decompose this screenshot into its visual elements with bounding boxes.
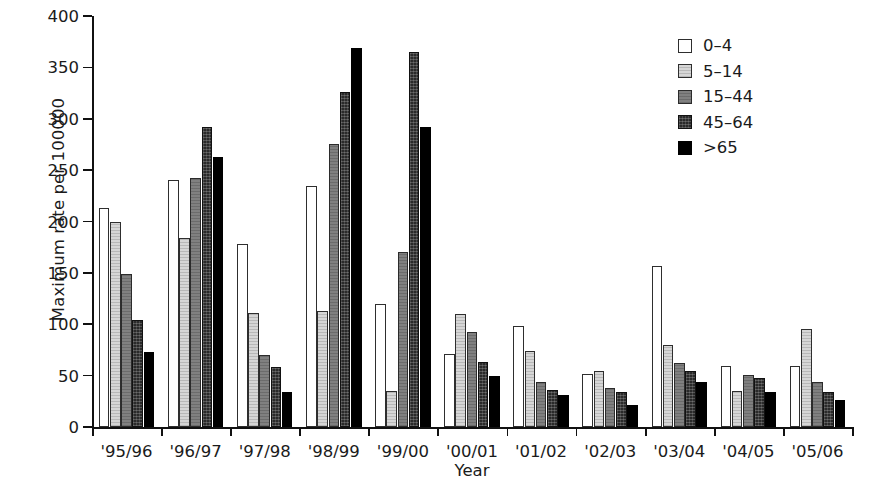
y-axis-tick <box>83 15 92 17</box>
bar <box>790 366 801 427</box>
bar <box>237 244 248 427</box>
x-axis-tick-label: '01/02 <box>515 442 567 461</box>
y-axis-tick <box>83 169 92 171</box>
bar <box>674 363 685 427</box>
bar <box>605 388 616 427</box>
legend-swatch-icon <box>678 64 692 78</box>
legend-label: 45–64 <box>703 113 753 132</box>
x-axis-tick <box>92 427 94 436</box>
bar <box>386 391 397 427</box>
x-axis-tick <box>576 427 578 436</box>
x-axis-tick-label: '05/06 <box>791 442 843 461</box>
y-axis-tick <box>83 67 92 69</box>
bar <box>271 367 282 427</box>
x-axis-tick <box>507 427 509 436</box>
legend-item: 5–14 <box>678 59 753 85</box>
x-axis-tick-label: '96/97 <box>170 442 222 461</box>
y-axis-tick-label: 350 <box>48 58 80 77</box>
bar <box>525 351 536 427</box>
bar <box>582 374 593 427</box>
bar <box>213 157 224 427</box>
y-axis-tick-label: 150 <box>48 263 80 282</box>
x-axis-tick <box>299 427 301 436</box>
bar <box>594 371 605 428</box>
bar-chart-figure: Maximum rate per 100000 0501001502002503… <box>0 0 875 490</box>
bar <box>132 320 143 427</box>
bar-group <box>99 16 154 427</box>
bar <box>398 252 409 427</box>
x-axis-tick-label: '02/03 <box>584 442 636 461</box>
y-axis-tick-label: 0 <box>69 418 80 437</box>
bar-group <box>582 16 637 427</box>
legend-label: 0–4 <box>703 36 732 55</box>
bar <box>329 144 340 427</box>
bar <box>801 329 812 427</box>
bar <box>765 392 776 427</box>
bar <box>467 332 478 427</box>
bar-group <box>375 16 430 427</box>
bar <box>144 352 155 427</box>
y-axis-tick <box>83 272 92 274</box>
x-axis-tick <box>783 427 785 436</box>
bar <box>306 186 317 427</box>
bar <box>696 382 707 427</box>
legend-swatch-icon <box>678 141 692 155</box>
bar <box>616 392 627 427</box>
x-axis-tick-label: '00/01 <box>446 442 498 461</box>
x-axis-title: Year <box>92 461 852 480</box>
bar <box>248 313 259 427</box>
bar-group <box>790 16 845 427</box>
y-axis-tick-label: 100 <box>48 315 80 334</box>
bar-group <box>168 16 223 427</box>
y-axis-tick <box>83 118 92 120</box>
bar <box>317 311 328 427</box>
x-axis-tick <box>645 427 647 436</box>
legend-item: 0–4 <box>678 33 753 59</box>
bar <box>99 208 110 427</box>
bar-group <box>513 16 568 427</box>
bar <box>340 92 351 427</box>
bar <box>282 392 293 427</box>
x-axis-tick <box>161 427 163 436</box>
x-axis-tick <box>230 427 232 436</box>
bar <box>455 314 466 427</box>
legend-label: 5–14 <box>703 62 743 81</box>
bar <box>721 366 732 427</box>
bar <box>536 382 547 427</box>
x-axis-tick <box>437 427 439 436</box>
legend-label: 15–44 <box>703 87 753 106</box>
bar <box>409 52 420 427</box>
bar <box>685 371 696 428</box>
bar <box>812 382 823 427</box>
bar <box>663 345 674 427</box>
legend-label: >65 <box>703 138 738 157</box>
bar <box>627 405 638 427</box>
bar <box>351 48 362 427</box>
bar <box>110 222 121 428</box>
bar-group <box>237 16 292 427</box>
chart-legend: 0–45–1415–4445–64>65 <box>678 33 753 161</box>
y-axis-tick-label: 400 <box>48 7 80 26</box>
bar <box>732 391 743 427</box>
legend-swatch-icon <box>678 39 692 53</box>
legend-item: 45–64 <box>678 110 753 136</box>
y-axis-tick-label: 200 <box>48 212 80 231</box>
x-axis-line <box>92 427 852 429</box>
bar <box>420 127 431 427</box>
bar <box>478 362 489 427</box>
bar-group <box>444 16 499 427</box>
bar <box>259 355 270 427</box>
y-axis-tick-label: 50 <box>58 366 79 385</box>
legend-item: >65 <box>678 135 753 161</box>
legend-swatch-icon <box>678 115 692 129</box>
bar <box>652 266 663 427</box>
y-axis-line <box>92 16 94 427</box>
x-axis-tick <box>368 427 370 436</box>
x-axis-tick <box>852 427 854 436</box>
y-axis-tick <box>83 426 92 428</box>
bar <box>179 238 190 427</box>
bar <box>202 127 213 427</box>
bar <box>168 180 179 427</box>
bar <box>375 304 386 427</box>
y-axis-tick-label: 300 <box>48 109 80 128</box>
